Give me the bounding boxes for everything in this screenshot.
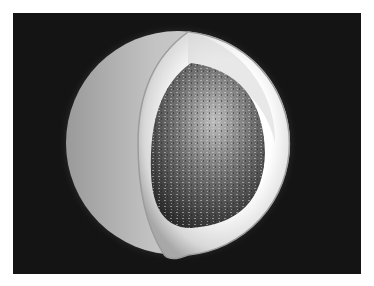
sphere-cutaway-illustration: [13, 13, 361, 274]
image-frame: [13, 13, 361, 274]
